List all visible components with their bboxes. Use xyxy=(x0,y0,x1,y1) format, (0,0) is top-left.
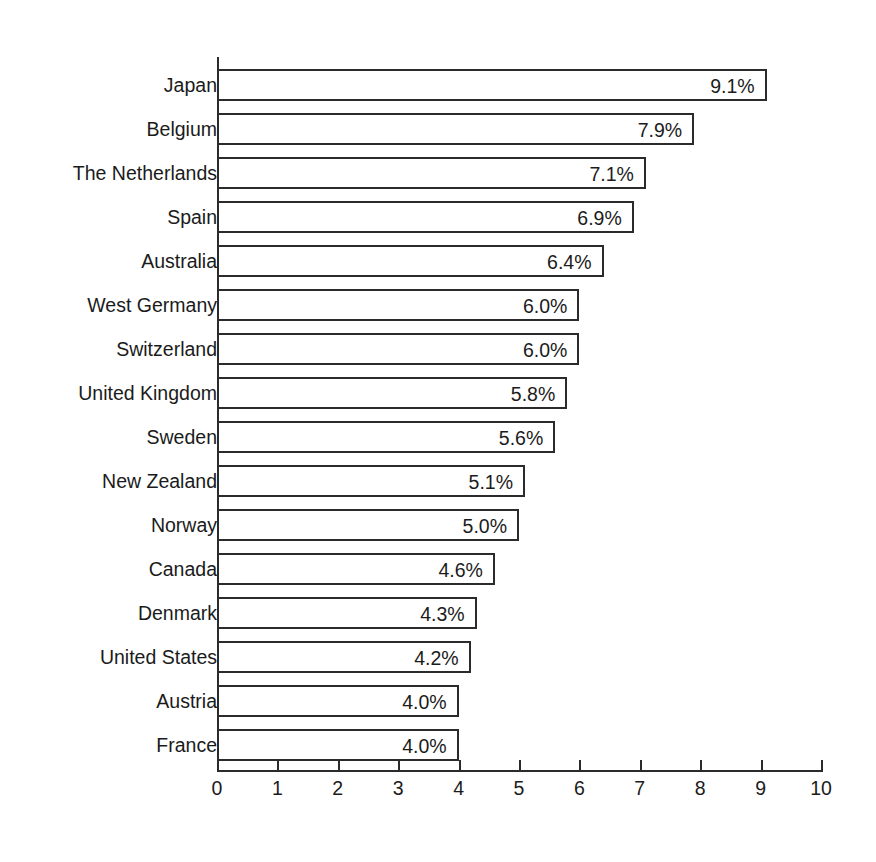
category-label: France xyxy=(0,729,217,761)
bar-value-label: 5.8% xyxy=(511,379,555,411)
y-axis-spine xyxy=(217,57,219,772)
bar: 6.9% xyxy=(217,201,634,233)
category-label: Denmark xyxy=(0,597,217,629)
category-label: Belgium xyxy=(0,113,217,145)
bar-row: The Netherlands7.1% xyxy=(0,157,876,189)
bar-row: Norway5.0% xyxy=(0,509,876,541)
x-tick xyxy=(277,760,279,771)
category-label: Norway xyxy=(0,509,217,541)
x-tick xyxy=(640,760,642,771)
bar-row: Belgium7.9% xyxy=(0,113,876,145)
category-label: New Zealand xyxy=(0,465,217,497)
x-tick-label: 10 xyxy=(791,777,851,800)
x-tick-label: 7 xyxy=(610,777,670,800)
bar-value-label: 5.0% xyxy=(463,511,507,543)
bar-value-label: 4.3% xyxy=(420,599,464,631)
x-tick-label: 0 xyxy=(187,777,247,800)
x-tick-label: 2 xyxy=(308,777,368,800)
bar-row: United States4.2% xyxy=(0,641,876,673)
x-tick xyxy=(398,760,400,771)
x-tick-label: 5 xyxy=(489,777,549,800)
bar-value-label: 9.1% xyxy=(710,71,754,103)
bar-value-label: 6.0% xyxy=(523,291,567,323)
bar: 6.0% xyxy=(217,289,579,321)
x-tick xyxy=(519,760,521,771)
x-tick xyxy=(821,760,823,771)
bar-row: Canada4.6% xyxy=(0,553,876,585)
bar: 4.6% xyxy=(217,553,495,585)
bar: 6.0% xyxy=(217,333,579,365)
bar-row: West Germany6.0% xyxy=(0,289,876,321)
bar: 7.9% xyxy=(217,113,694,145)
bar: 4.0% xyxy=(217,729,459,761)
bar: 4.0% xyxy=(217,685,459,717)
category-label: United States xyxy=(0,641,217,673)
bar-row: Switzerland6.0% xyxy=(0,333,876,365)
x-tick-label: 6 xyxy=(549,777,609,800)
bar-row: Spain6.9% xyxy=(0,201,876,233)
bar-value-label: 6.9% xyxy=(577,203,621,235)
bar-value-label: 4.0% xyxy=(402,731,446,763)
bar-row: France4.0% xyxy=(0,729,876,761)
category-label: West Germany xyxy=(0,289,217,321)
x-tick-label: 8 xyxy=(670,777,730,800)
bar: 5.6% xyxy=(217,421,555,453)
bar-row: Sweden5.6% xyxy=(0,421,876,453)
x-tick xyxy=(217,760,219,771)
category-label: Sweden xyxy=(0,421,217,453)
bar-value-label: 4.6% xyxy=(438,555,482,587)
bar-value-label: 4.2% xyxy=(414,643,458,675)
x-tick xyxy=(338,760,340,771)
x-tick-label: 9 xyxy=(731,777,791,800)
bar-row: Austria4.0% xyxy=(0,685,876,717)
category-label: United Kingdom xyxy=(0,377,217,409)
x-tick xyxy=(579,760,581,771)
category-label: Spain xyxy=(0,201,217,233)
bar-value-label: 6.4% xyxy=(547,247,591,279)
x-tick-label: 4 xyxy=(429,777,489,800)
x-tick xyxy=(459,760,461,771)
bar-row: United Kingdom5.8% xyxy=(0,377,876,409)
x-tick xyxy=(700,760,702,771)
bar: 7.1% xyxy=(217,157,646,189)
bar-value-label: 6.0% xyxy=(523,335,567,367)
category-label: The Netherlands xyxy=(0,157,217,189)
bar-chart-plot: Japan9.1%Belgium7.9%The Netherlands7.1%S… xyxy=(0,0,876,862)
bar-value-label: 4.0% xyxy=(402,687,446,719)
bar: 5.1% xyxy=(217,465,525,497)
category-label: Austria xyxy=(0,685,217,717)
bar: 4.3% xyxy=(217,597,477,629)
category-label: Switzerland xyxy=(0,333,217,365)
x-tick-label: 1 xyxy=(247,777,307,800)
bar: 5.8% xyxy=(217,377,567,409)
bar-row: New Zealand5.1% xyxy=(0,465,876,497)
bar: 9.1% xyxy=(217,69,767,101)
bar-row: Australia6.4% xyxy=(0,245,876,277)
chart-page: Japan9.1%Belgium7.9%The Netherlands7.1%S… xyxy=(0,0,876,862)
category-label: Australia xyxy=(0,245,217,277)
bar-value-label: 7.1% xyxy=(589,159,633,191)
category-label: Japan xyxy=(0,69,217,101)
category-label: Canada xyxy=(0,553,217,585)
bar-value-label: 7.9% xyxy=(638,115,682,147)
x-tick-label: 3 xyxy=(368,777,428,800)
bar-row: Denmark4.3% xyxy=(0,597,876,629)
bar-value-label: 5.6% xyxy=(499,423,543,455)
x-tick xyxy=(761,760,763,771)
bar-row: Japan9.1% xyxy=(0,69,876,101)
bar: 4.2% xyxy=(217,641,471,673)
bar: 6.4% xyxy=(217,245,604,277)
bar-value-label: 5.1% xyxy=(469,467,513,499)
bar: 5.0% xyxy=(217,509,519,541)
